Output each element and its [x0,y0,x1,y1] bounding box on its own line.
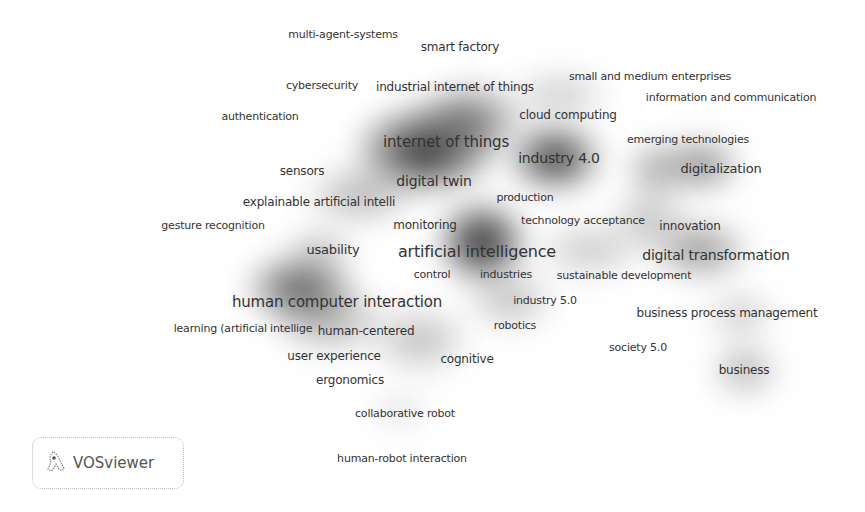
term-label[interactable]: small and medium enterprises [569,71,731,82]
density-map[interactable]: multi-agent-systemssmart factorycybersec… [0,0,865,512]
term-label[interactable]: multi-agent-systems [288,29,398,40]
term-label[interactable]: ergonomics [316,374,384,386]
term-label[interactable]: control [414,269,451,280]
term-label[interactable]: business process management [636,307,817,319]
vosviewer-logo-text: VOSviewer [73,454,154,472]
term-label[interactable]: digitalization [681,162,762,175]
term-label[interactable]: human computer interaction [232,295,442,310]
vosviewer-logo-icon [45,449,67,477]
term-label[interactable]: emerging technologies [627,134,749,145]
term-label[interactable]: gesture recognition [161,220,264,231]
vosviewer-logo: VOSviewer [32,437,184,489]
term-label[interactable]: explainable artificial intelli [243,196,395,208]
term-label[interactable]: cybersecurity [286,80,358,91]
term-label[interactable]: internet of things [383,135,509,150]
term-label[interactable]: industries [480,269,532,280]
term-label[interactable]: collaborative robot [355,408,455,419]
term-label[interactable]: innovation [659,220,720,232]
term-label[interactable]: industrial internet of things [376,81,534,93]
term-label[interactable]: monitoring [393,219,457,231]
term-label[interactable]: robotics [494,320,536,331]
term-label[interactable]: sustainable development [557,270,692,281]
term-label[interactable]: learning (artificial intellige [174,323,313,334]
term-label[interactable]: authentication [221,111,298,122]
term-label[interactable]: human-robot interaction [337,453,467,464]
term-label[interactable]: user experience [287,350,381,362]
term-label[interactable]: sensors [280,165,325,177]
term-label[interactable]: digital transformation [642,248,790,262]
term-label[interactable]: digital twin [396,174,471,188]
term-label[interactable]: society 5.0 [609,342,667,353]
term-label[interactable]: artificial intelligence [398,244,556,260]
term-label[interactable]: human-centered [318,325,415,337]
term-label[interactable]: information and communication [646,92,816,103]
term-label[interactable]: production [496,192,553,203]
term-label[interactable]: technology acceptance [521,215,645,226]
term-label[interactable]: business [719,364,770,376]
term-label[interactable]: industry 5.0 [513,295,577,306]
term-label[interactable]: usability [306,243,359,256]
term-label[interactable]: cognitive [440,353,493,365]
term-label[interactable]: industry 4.0 [518,151,600,165]
term-label[interactable]: smart factory [421,41,499,53]
term-label[interactable]: cloud computing [519,109,616,121]
